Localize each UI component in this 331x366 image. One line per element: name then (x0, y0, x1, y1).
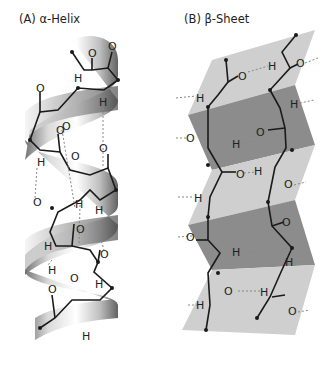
svg-text:H: H (232, 246, 240, 259)
svg-text:H: H (285, 256, 293, 269)
svg-text:O: O (100, 248, 109, 261)
beta-sheet-planes (182, 30, 315, 335)
svg-text:H: H (196, 92, 204, 105)
svg-text:O: O (33, 196, 42, 209)
svg-text:O: O (284, 178, 293, 191)
svg-text:H: H (232, 138, 240, 151)
svg-text:O: O (238, 70, 247, 83)
svg-text:O: O (296, 57, 305, 70)
svg-text:H: H (95, 278, 103, 291)
svg-text:H: H (48, 264, 56, 277)
svg-text:O: O (282, 216, 291, 229)
svg-text:O: O (224, 285, 233, 298)
svg-text:H: H (260, 286, 268, 299)
svg-text:H: H (75, 198, 83, 211)
svg-text:O: O (288, 305, 297, 318)
svg-text:H: H (99, 96, 107, 109)
svg-text:H: H (268, 60, 276, 73)
svg-text:O: O (56, 124, 65, 137)
svg-text:H: H (196, 299, 204, 312)
svg-text:O: O (48, 283, 57, 296)
svg-text:O: O (88, 47, 97, 60)
svg-text:O: O (99, 142, 108, 155)
svg-text:H: H (37, 156, 45, 169)
svg-text:H: H (74, 72, 82, 85)
svg-text:O: O (76, 223, 85, 236)
diagram-canvas: O O H H O O O O H O H H O O H H O O H H … (0, 0, 331, 366)
svg-text:O: O (71, 150, 80, 163)
svg-text:O: O (36, 82, 45, 95)
svg-text:O: O (186, 231, 195, 244)
svg-text:H: H (95, 204, 103, 217)
svg-text:O: O (186, 132, 195, 145)
svg-text:O: O (256, 126, 265, 139)
svg-text:H: H (82, 330, 90, 343)
svg-text:O: O (108, 40, 117, 53)
svg-text:O: O (236, 168, 245, 181)
svg-text:H: H (194, 192, 202, 205)
svg-text:O: O (70, 272, 79, 285)
svg-text:H: H (290, 98, 298, 111)
svg-text:H: H (254, 165, 262, 178)
svg-text:H: H (44, 240, 52, 253)
